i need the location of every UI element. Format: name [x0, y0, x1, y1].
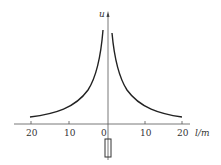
tick-label: 0: [101, 128, 107, 138]
tick-label: 10: [140, 128, 152, 138]
x-axis-label: l/m: [195, 128, 209, 138]
right-curve: [112, 33, 182, 117]
y-axis-label: u: [99, 9, 105, 19]
x-ticks: [31, 121, 182, 124]
left-curve: [30, 30, 103, 117]
chart: u 20 10 0 10 20 l/m: [0, 0, 221, 165]
tick-label: 20: [177, 128, 189, 138]
y-axis-arrow-icon: [107, 11, 110, 17]
tick-label: 10: [64, 128, 76, 138]
tick-label: 20: [26, 128, 38, 138]
